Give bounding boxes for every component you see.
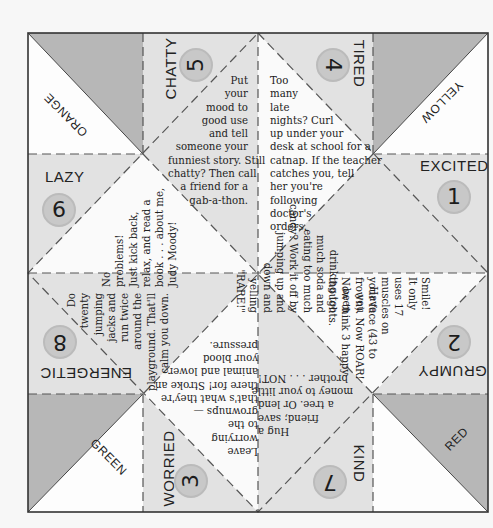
mood-label-lazy[interactable]: LAZY (45, 168, 85, 185)
mood-number-1[interactable]: 1 (437, 180, 471, 214)
mood-label-excited[interactable]: EXCITED (420, 157, 489, 174)
mood-number-7[interactable]: 7 (313, 465, 347, 499)
mood-text-lazy: Noproblems!Just kick back,relax, and rea… (100, 177, 180, 287)
mood-text-kind: Hug afriend; savea tree. Or lendmoney to… (258, 372, 353, 438)
mood-text-energetic: Dotwentyjumpingjacks andrun twicearound … (65, 293, 171, 411)
mood-number-2[interactable]: 2 (437, 325, 471, 359)
mood-number-6[interactable]: 6 (42, 193, 76, 227)
mood-number-3[interactable]: 3 (174, 464, 208, 498)
fortune-teller-sheet: ORANGE YELLOW GREEN RED CHATTY 5 Putyour… (0, 0, 493, 528)
mood-label-kind[interactable]: KIND (351, 445, 368, 483)
